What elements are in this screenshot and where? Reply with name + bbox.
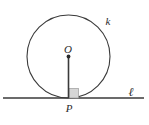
center-label-o: O bbox=[64, 43, 72, 55]
right-angle-marker bbox=[69, 89, 79, 99]
figure-canvas: k O P ℓ bbox=[0, 0, 149, 125]
circle-label-k: k bbox=[106, 15, 112, 27]
tangent-point-label-p: P bbox=[65, 102, 73, 114]
center-point-dot bbox=[67, 55, 71, 59]
geometry-figure: k O P ℓ bbox=[0, 0, 149, 125]
tangent-line-label-ell: ℓ bbox=[129, 85, 134, 99]
